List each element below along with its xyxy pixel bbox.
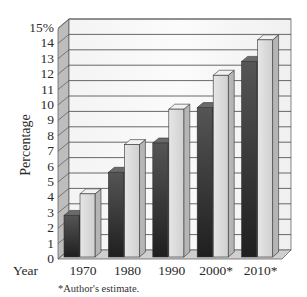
y-axis-ticks: 0123456789101112131415%	[29, 20, 54, 266]
y-tick-label: 14	[41, 35, 55, 50]
y-tick-label: 10	[41, 97, 55, 112]
y-tick-label: 3	[47, 205, 54, 220]
x-tick-label: 1990	[158, 263, 185, 278]
y-tick-label: 15%	[29, 20, 54, 35]
y-tick-label: 11	[41, 82, 54, 97]
x-tick-label: 2000*	[199, 263, 233, 278]
x-tick-label: 2010*	[244, 263, 278, 278]
bar	[124, 140, 145, 257]
y-tick-label: 0	[47, 251, 54, 266]
y-tick-label: 7	[47, 143, 54, 158]
y-tick-label: 6	[47, 159, 54, 174]
y-tick-label: 5	[47, 174, 54, 189]
bar	[258, 35, 279, 257]
bar	[80, 189, 101, 257]
y-tick-label: 13	[41, 51, 55, 66]
y-tick-label: 8	[47, 128, 54, 143]
y-tick-label: 1	[47, 236, 54, 251]
x-tick-label: 1980	[114, 263, 141, 278]
bar	[213, 70, 234, 257]
x-axis-title: Year	[13, 263, 38, 278]
y-tick-label: 12	[41, 66, 55, 81]
footnote: *Author's estimate.	[58, 283, 139, 294]
x-axis-ticks: 1970198019902000*2010*	[70, 263, 278, 278]
y-tick-label: 2	[47, 220, 54, 235]
y-tick-label: 9	[47, 112, 54, 127]
y-tick-label: 4	[47, 189, 54, 204]
bar	[169, 104, 190, 257]
bar-chart: 0123456789101112131415% 1970198019902000…	[0, 0, 307, 297]
y-axis-title: Percentage	[18, 114, 33, 175]
x-tick-label: 1970	[70, 263, 97, 278]
